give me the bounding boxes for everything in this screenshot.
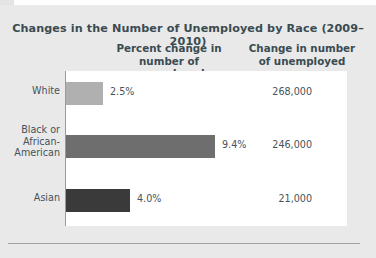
category-label-asian-line1: Asian — [0, 192, 60, 204]
category-label-black-african-american-line1: Black or — [0, 124, 60, 136]
bar-asian — [66, 189, 130, 212]
column-header-change-in-number: Change in number of unemployed — [240, 42, 364, 67]
category-label-black-african-american-line2: African- — [0, 136, 60, 148]
bar-value-label-asian: 4.0% — [137, 193, 161, 204]
category-label-black-african-american-line3: American — [0, 147, 60, 159]
category-label-white-line1: White — [0, 85, 60, 97]
column-header-change-in-number-line2: of unemployed — [240, 55, 364, 68]
count-value-black-african-american: 246,000 — [224, 139, 312, 150]
chart-row-black-african-american: Black or African- American 9.4% 246,000 — [0, 116, 376, 171]
column-header-change-in-number-line1: Change in number — [240, 42, 364, 55]
bar-black-african-american — [66, 135, 215, 158]
category-label-white: White — [0, 85, 60, 97]
category-label-asian: Asian — [0, 192, 60, 204]
column-header-percent-change-line1: Percent change in — [104, 42, 234, 55]
chart-row-white: White 2.5% 268,000 — [0, 71, 376, 116]
category-label-black-african-american: Black or African- American — [0, 124, 60, 159]
count-value-asian: 21,000 — [224, 193, 312, 204]
bar-value-label-white: 2.5% — [110, 86, 134, 97]
chart-row-asian: Asian 4.0% 21,000 — [0, 171, 376, 226]
count-value-white: 268,000 — [224, 86, 312, 97]
bottom-divider — [8, 243, 360, 244]
bar-white — [66, 82, 103, 105]
chart-figure: Changes in the Number of Unemployed by R… — [0, 5, 376, 258]
